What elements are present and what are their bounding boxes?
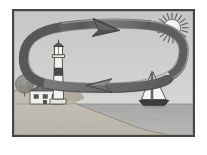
sailboat-reflection: [143, 106, 165, 108]
lighthouse-band: [54, 68, 62, 76]
lighthouse-base: [50, 99, 66, 104]
sailboat-hull: [139, 101, 169, 106]
house-door: [43, 100, 47, 104]
sea-breeze-illustration: [0, 0, 207, 155]
lighthouse-tower: [53, 57, 64, 99]
figure-root: A framed grayscale drawing of a coastlin…: [0, 0, 207, 155]
